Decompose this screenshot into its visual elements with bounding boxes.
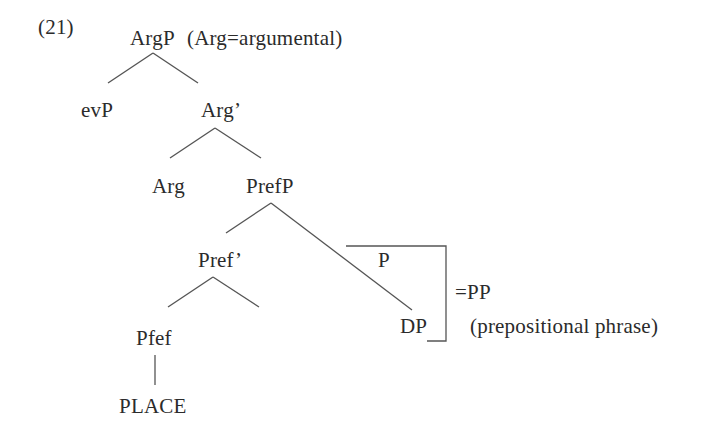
syntax-tree-diagram: (21) ArgP (Arg=argumental) evP Arg’ Arg …	[0, 0, 710, 434]
edge-prefbar-empty	[213, 277, 259, 307]
node-p: P	[378, 250, 390, 271]
edge-argp-evp	[108, 53, 153, 83]
node-arg-bar: Arg’	[201, 100, 241, 121]
edge-prefp-prefbar	[226, 203, 271, 233]
tree-edges	[0, 0, 710, 434]
edge-prefp-dp	[271, 203, 412, 310]
edge-argp-argbar	[153, 53, 198, 83]
node-place: PLACE	[119, 396, 187, 417]
node-pref-bar: Pref’	[198, 250, 242, 271]
node-evp: evP	[81, 100, 113, 121]
edge-argbar-arg	[170, 128, 215, 158]
node-pfef: Pfef	[136, 328, 172, 349]
bracket-gloss: (prepositional phrase)	[470, 316, 658, 337]
bracket-label-pp: =PP	[455, 282, 491, 303]
node-arg: Arg	[152, 176, 185, 197]
example-number: (21)	[38, 17, 74, 38]
node-argp-gloss: (Arg=argumental)	[187, 28, 342, 49]
edge-argbar-prefp	[215, 128, 261, 158]
pp-bracket	[346, 246, 446, 341]
edge-prefbar-pfef	[168, 277, 213, 307]
node-prefp: PrefP	[246, 176, 294, 197]
node-dp: DP	[400, 316, 427, 337]
node-argp: ArgP	[130, 28, 175, 49]
